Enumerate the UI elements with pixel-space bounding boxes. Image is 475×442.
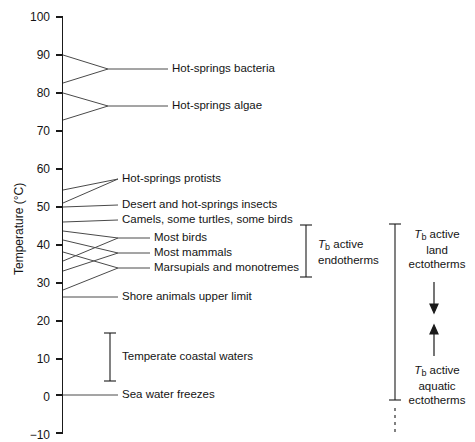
leader-hot-springs-algae-upper — [63, 93, 108, 106]
label-sea-water-freezes: Sea water freezes — [122, 388, 215, 401]
leader-most-birds-upper — [63, 231, 118, 238]
annotation-aquatic-ectotherms: Tb active aquatic ectotherms — [404, 364, 470, 407]
leader-hot-springs-protists-lower — [63, 179, 118, 203]
label-hot-springs-bacteria: Hot-springs bacteria — [172, 62, 275, 75]
arrow-down-land-ectotherms-head — [430, 304, 438, 313]
annotation-endotherms-line1: Tb active — [318, 238, 379, 254]
annotation-land-ectotherms-active: active — [426, 228, 459, 240]
label-hot-springs-protists: Hot-springs protists — [122, 172, 221, 185]
leader-hot-springs-algae-lower — [63, 106, 108, 120]
leader-most-mammals-lower — [63, 253, 118, 271]
label-most-birds: Most birds — [154, 231, 207, 244]
arrow-up-aquatic-ectotherms-head — [430, 325, 438, 334]
annotation-aquatic-ectotherms-active: active — [426, 364, 459, 376]
annotation-endotherms-active: active — [330, 238, 363, 250]
label-hot-springs-algae: Hot-springs algae — [172, 99, 262, 112]
label-desert-and-hot-springs-insects: Desert and hot-springs insects — [122, 198, 277, 211]
leader-hot-springs-protists-upper — [63, 179, 118, 190]
label-most-mammals: Most mammals — [154, 246, 232, 259]
annotation-aquatic-ectotherms-line3: ectotherms — [404, 394, 470, 408]
annotation-aquatic-ectotherms-line2: aquatic — [404, 380, 470, 394]
leader-hot-springs-bacteria-lower — [63, 69, 108, 83]
label-temperate-coastal-waters: Temperate coastal waters — [122, 350, 253, 363]
label-marsupials-and-monotremes: Marsupials and monotremes — [154, 261, 299, 274]
annotation-endotherms-line2: endotherms — [318, 254, 379, 268]
label-shore-animals-upper-limit: Shore animals upper limit — [122, 290, 252, 303]
annotation-land-ectotherms-line3: ectotherms — [404, 258, 470, 272]
annotation-endotherms: Tb active endotherms — [318, 238, 379, 268]
annotation-land-ectotherms-line1: Tb active — [404, 228, 470, 244]
label-camels-some-turtles-some-birds: Camels, some turtles, some birds — [122, 213, 293, 226]
annotation-land-ectotherms-line2: land — [404, 244, 470, 258]
leader-hot-springs-bacteria-upper — [63, 55, 108, 69]
leader-desert-insects — [63, 205, 118, 207]
tb-symbol-endotherms: T — [318, 238, 325, 250]
leader-camels-turtles-birds — [63, 220, 118, 222]
annotation-land-ectotherms: Tb active land ectotherms — [404, 228, 470, 271]
annotation-aquatic-ectotherms-line1: Tb active — [404, 364, 470, 380]
leader-marsupials-upper — [63, 252, 118, 268]
leader-marsupials-lower — [63, 268, 118, 290]
